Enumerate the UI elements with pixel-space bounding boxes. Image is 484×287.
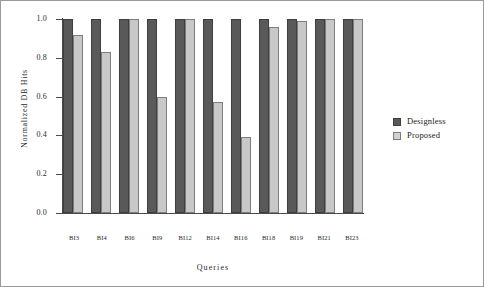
y-axis-tick-mark	[56, 97, 62, 98]
bar-proposed-bi23	[353, 19, 363, 213]
x-axis-tick-label: BI23	[341, 234, 363, 246]
bar-group	[315, 19, 335, 213]
x-axis-tick-label: BI16	[230, 234, 252, 246]
legend-item-proposed: Proposed	[393, 131, 446, 140]
x-axis-tick-label: BI19	[285, 234, 307, 246]
bar-designless-bi6	[119, 19, 129, 213]
y-axis-tick-mark	[56, 19, 62, 20]
x-axis-tick-label: BI4	[91, 234, 113, 246]
bar-proposed-bi19	[297, 21, 307, 213]
bar-proposed-bi4	[101, 52, 111, 213]
bar-group	[259, 19, 279, 213]
bar-group	[63, 19, 83, 213]
bar-groups	[63, 19, 363, 213]
bar-designless-bi16	[231, 19, 241, 213]
y-axis-tick-label: 0.8	[7, 54, 47, 62]
bar-proposed-bi12	[185, 19, 195, 213]
bar-designless-bi12	[175, 19, 185, 213]
bar-group	[119, 19, 139, 213]
y-axis-tick-label: 0.4	[7, 131, 47, 139]
bar-designless-bi14	[203, 19, 213, 213]
bar-group	[287, 19, 307, 213]
legend-label: Proposed	[407, 131, 440, 140]
bar-designless-bi18	[259, 19, 269, 213]
y-axis-tick-label: 0.6	[7, 93, 47, 101]
x-axis-tick-label: BI6	[119, 234, 141, 246]
x-axis-tick-labels: BI3BI4BI6BI9BI12BI14BI16BI18BI19BI21BI23	[63, 234, 363, 246]
x-axis-tick-label: BI9	[146, 234, 168, 246]
bar-group	[147, 19, 167, 213]
y-axis-tick-label: 1.0	[7, 15, 47, 23]
y-axis-tick-label: 0.2	[7, 170, 47, 178]
chart-legend: DesignlessProposed	[393, 117, 446, 145]
x-axis-tick-label: BI12	[174, 234, 196, 246]
y-axis-tick-label: 0.0	[7, 209, 47, 217]
bar-designless-bi19	[287, 19, 297, 213]
bar-group	[231, 19, 251, 213]
legend-label: Designless	[407, 117, 446, 126]
x-axis-tick-label: BI3	[63, 234, 85, 246]
bar-designless-bi9	[147, 19, 157, 213]
bar-designless-bi4	[91, 19, 101, 213]
x-axis-tick-label: BI18	[258, 234, 280, 246]
legend-swatch-icon	[393, 118, 401, 126]
bar-designless-bi21	[315, 19, 325, 213]
bar-proposed-bi21	[325, 19, 335, 213]
legend-swatch-icon	[393, 132, 401, 140]
bar-group	[343, 19, 363, 213]
bar-group	[203, 19, 223, 213]
y-axis-tick-mark	[56, 174, 62, 175]
y-axis-tick-mark	[56, 58, 62, 59]
y-axis-tick-mark	[56, 135, 62, 136]
bar-proposed-bi9	[157, 97, 167, 213]
bar-proposed-bi6	[129, 19, 139, 213]
bar-group	[175, 19, 195, 213]
x-axis-title: Queries	[1, 263, 425, 272]
x-axis-tick-label: BI21	[313, 234, 335, 246]
x-axis-tick-label: BI14	[202, 234, 224, 246]
bar-proposed-bi14	[213, 102, 223, 213]
legend-item-designless: Designless	[393, 117, 446, 126]
bar-designless-bi23	[343, 19, 353, 213]
bar-designless-bi3	[63, 19, 73, 213]
bar-proposed-bi18	[269, 27, 279, 213]
bar-proposed-bi16	[241, 137, 251, 213]
bar-proposed-bi3	[73, 35, 83, 213]
bar-group	[91, 19, 111, 213]
y-axis-tick-mark	[56, 213, 62, 214]
chart-figure: Normalized DB Hits 1.00.80.60.40.20.0 BI…	[0, 0, 484, 287]
x-axis-line	[62, 213, 364, 214]
